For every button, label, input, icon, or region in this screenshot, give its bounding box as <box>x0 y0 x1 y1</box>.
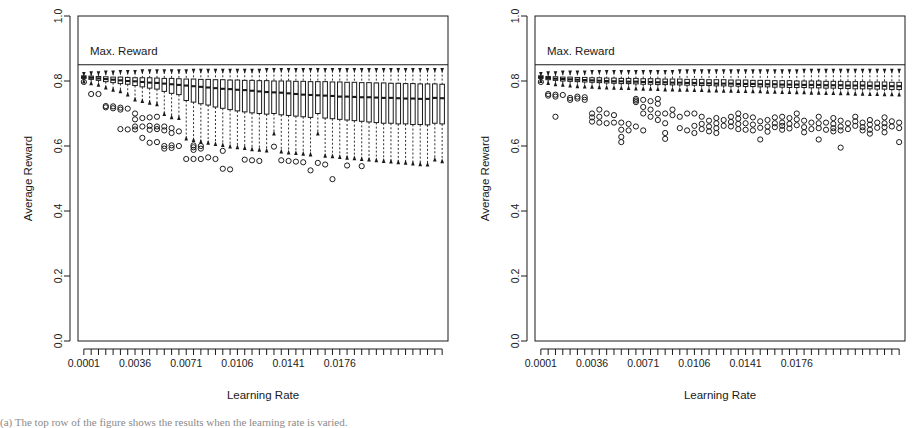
whisker-cap-upper <box>272 68 276 73</box>
box <box>411 84 416 125</box>
whisker-cap-lower <box>656 86 660 91</box>
outlier-point <box>286 158 291 163</box>
boxplot-item <box>663 70 668 142</box>
y-axis: 0.00.20.40.60.81.0 <box>509 9 527 349</box>
outlier-point <box>801 125 806 130</box>
whisker-cap-upper <box>568 71 572 76</box>
boxplot-item <box>838 69 843 151</box>
whisker-cap-upper <box>590 70 594 75</box>
outlier-point <box>889 119 894 124</box>
boxplot-item <box>418 68 423 166</box>
outlier-point <box>670 113 675 118</box>
y-axis-tick-label: 0.6 <box>52 139 64 154</box>
outlier-point <box>838 128 843 133</box>
outlier-point <box>154 140 159 145</box>
outlier-point <box>758 119 763 124</box>
whisker-cap-lower <box>693 87 697 92</box>
outlier-point <box>780 127 785 132</box>
x-axis-tick-label: 0.0036 <box>576 357 608 369</box>
boxplot-item <box>597 70 602 125</box>
whisker-cap-lower <box>258 147 262 152</box>
outlier-point <box>692 111 697 116</box>
outlier-point <box>758 125 763 130</box>
outlier-point <box>147 115 152 120</box>
outlier-point <box>604 121 609 126</box>
whisker-cap-upper <box>883 69 887 74</box>
whisker-cap-upper <box>546 71 550 76</box>
whisker-cap-lower <box>619 85 623 90</box>
boxplot-item <box>89 71 94 96</box>
whisker-cap-upper <box>795 69 799 74</box>
boxplot-item <box>206 69 211 160</box>
whisker-cap-upper <box>111 71 115 76</box>
outlier-point <box>132 117 137 122</box>
outlier-point <box>641 111 646 116</box>
x-axis-tick-label: 0.0036 <box>119 357 151 369</box>
whisker-cap-lower <box>868 91 872 96</box>
whisker-cap-upper <box>693 69 697 74</box>
outlier-point <box>699 114 704 119</box>
box <box>294 81 299 116</box>
whisker-cap-upper <box>382 68 386 73</box>
x-axis-tick-label: 0.0001 <box>525 357 557 369</box>
outlier-point <box>648 114 653 119</box>
box <box>301 81 306 116</box>
outlier-point <box>750 122 755 127</box>
outlier-point <box>293 159 298 164</box>
whisker-cap-upper <box>97 71 101 76</box>
whisker-cap-upper <box>148 69 152 74</box>
outlier-point <box>118 127 123 132</box>
whisker-cap-lower <box>744 88 748 93</box>
outlier-point <box>823 127 828 132</box>
outlier-point <box>684 128 689 133</box>
whisker-cap-upper <box>89 71 93 76</box>
outlier-point <box>787 115 792 120</box>
boxplot-item <box>677 69 682 130</box>
boxplot-item <box>367 68 372 162</box>
whisker-cap-lower <box>707 88 711 93</box>
outlier-point <box>875 120 880 125</box>
boxplot-figure: 0.00.20.40.60.81.0Average Reward0.00010.… <box>0 0 914 428</box>
outlier-point <box>794 123 799 128</box>
whisker-cap-upper <box>396 68 400 73</box>
boxplot-item <box>352 68 357 160</box>
boxplot-item <box>257 69 262 164</box>
whisker-cap-lower <box>382 158 386 163</box>
whisker-cap-lower <box>875 91 879 96</box>
outlier-point <box>772 115 777 120</box>
whisker-cap-upper <box>897 69 901 74</box>
y-axis-tick-label: 0.6 <box>509 139 521 154</box>
outlier-point <box>242 157 247 162</box>
boxplot-item <box>882 69 887 135</box>
chart-panel-right: 0.00.20.40.60.81.0Average Reward0.00010.… <box>457 0 914 428</box>
whisker-cap-lower <box>375 157 379 162</box>
max-reward-label: Max. Reward <box>547 45 615 57</box>
outlier-point <box>125 127 130 132</box>
outlier-point <box>663 130 668 135</box>
box <box>316 82 321 114</box>
whisker-cap-upper <box>162 69 166 74</box>
outlier-point <box>897 126 902 131</box>
boxplot-item <box>641 70 646 133</box>
outlier-point <box>670 107 675 112</box>
box <box>221 80 226 109</box>
whisker-cap-upper <box>729 69 733 74</box>
whisker-cap-upper <box>773 69 777 74</box>
outlier-point <box>626 128 631 133</box>
whisker-cap-upper <box>360 68 364 73</box>
boxplot-item <box>831 69 836 134</box>
whisker-cap-upper <box>206 69 210 74</box>
whisker-cap-upper <box>839 69 843 74</box>
whisker-cap-upper <box>433 68 437 73</box>
whisker-cap-lower <box>294 150 298 155</box>
outlier-point <box>641 104 646 109</box>
max-reward-label: Max. Reward <box>90 45 158 57</box>
outlier-point <box>860 128 865 133</box>
box <box>359 83 364 122</box>
whisker-cap-upper <box>323 68 327 73</box>
whisker-cap-upper <box>221 69 225 74</box>
whisker-cap-upper <box>404 68 408 73</box>
whisker-cap-upper <box>605 70 609 75</box>
whisker-cap-lower <box>846 91 850 96</box>
whisker-cap-upper <box>192 69 196 74</box>
